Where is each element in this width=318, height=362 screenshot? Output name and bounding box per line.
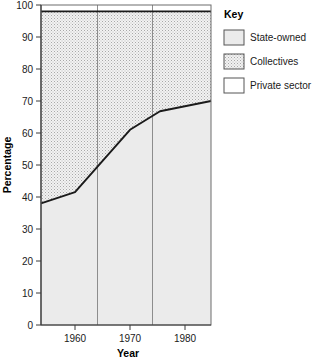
- legend-swatch-state-owned: [224, 30, 244, 45]
- y-tick-label-90: 90: [22, 32, 34, 43]
- legend-item-collectives[interactable]: Collectives: [224, 54, 298, 69]
- legend-item-state-owned[interactable]: State-owned: [224, 30, 306, 45]
- legend-swatch-collectives: [224, 54, 244, 69]
- y-tick-label-50: 50: [22, 160, 34, 171]
- y-tick-label-40: 40: [22, 192, 34, 203]
- x-tick-label-1960: 1960: [64, 333, 87, 344]
- y-tick-label-30: 30: [22, 224, 34, 235]
- legend-label-collectives: Collectives: [250, 56, 298, 67]
- x-axis-title: Year: [117, 347, 139, 359]
- chart-container: 100 90 80 70 60 50 40 30 20 10 0 Percent…: [0, 0, 318, 362]
- legend-swatch-private-sector: [224, 78, 244, 93]
- y-tick-label-20: 20: [22, 256, 34, 267]
- plot-area: [41, 5, 211, 325]
- x-axis: 1960 1970 1980 Year: [41, 325, 211, 359]
- y-tick-label-100: 100: [16, 0, 33, 11]
- y-axis: 100 90 80 70 60 50 40 30 20 10 0 Percent…: [1, 0, 41, 331]
- y-tick-label-0: 0: [27, 320, 33, 331]
- legend-label-private-sector: Private sector: [250, 80, 312, 91]
- area-private-sector: [41, 5, 211, 11]
- legend-item-private-sector[interactable]: Private sector: [224, 78, 312, 93]
- chart-svg: 100 90 80 70 60 50 40 30 20 10 0 Percent…: [0, 0, 318, 362]
- legend-label-state-owned: State-owned: [250, 32, 306, 43]
- x-tick-label-1970: 1970: [119, 333, 142, 344]
- y-tick-label-60: 60: [22, 128, 34, 139]
- x-tick-label-1980: 1980: [174, 333, 197, 344]
- legend: Key State-owned Collectives Private sect…: [224, 8, 312, 93]
- y-tick-label-80: 80: [22, 64, 34, 75]
- y-tick-label-10: 10: [22, 288, 34, 299]
- y-tick-label-70: 70: [22, 96, 34, 107]
- y-axis-title: Percentage: [1, 137, 13, 194]
- legend-title: Key: [224, 8, 243, 20]
